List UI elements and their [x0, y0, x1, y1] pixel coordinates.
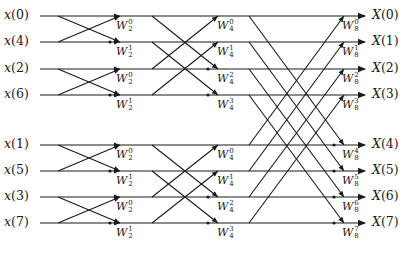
twiddle-factor-label: W12	[116, 98, 133, 112]
input-symbol: x	[4, 214, 11, 229]
twiddle-base: W	[342, 98, 353, 111]
output-index: (7)	[381, 214, 399, 229]
input-label: x(2)	[4, 60, 29, 75]
twiddle-factor-label: W04	[217, 148, 234, 162]
output-symbol: X	[372, 60, 381, 75]
twiddle-factor-label: W14	[217, 45, 234, 59]
twiddle-order: 8	[354, 26, 358, 33]
twiddle-factor-label: W68	[342, 200, 359, 214]
output-label: X(7)	[372, 214, 399, 229]
twiddle-order: 2	[128, 52, 132, 59]
input-label: x(4)	[4, 33, 29, 48]
twiddle-base: W	[116, 72, 127, 85]
twiddle-factor-label: W38	[342, 98, 359, 112]
twiddle-order: 4	[229, 155, 233, 162]
input-label: x(1)	[4, 136, 29, 151]
output-symbol: X	[372, 33, 381, 48]
twiddle-order: 8	[354, 181, 358, 188]
signal-flow-lines	[0, 0, 408, 259]
twiddle-order: 4	[229, 79, 233, 86]
output-arrow-icon	[358, 39, 366, 46]
input-symbol: x	[4, 7, 11, 22]
input-index: (1)	[11, 136, 29, 151]
twiddle-base: W	[116, 226, 127, 239]
twiddle-base: W	[116, 19, 127, 32]
output-label: X(3)	[372, 86, 399, 101]
output-symbol: X	[372, 7, 381, 22]
twiddle-order: 4	[229, 233, 233, 240]
output-arrow-icon	[358, 194, 366, 201]
multiplier-node-icon	[206, 221, 209, 224]
output-symbol: X	[372, 214, 381, 229]
twiddle-factor-label: W02	[116, 148, 133, 162]
input-symbol: x	[4, 136, 11, 151]
output-index: (6)	[381, 188, 399, 203]
twiddle-base: W	[342, 45, 353, 58]
input-symbol: x	[4, 33, 11, 48]
multiplier-node-icon	[206, 93, 209, 96]
twiddle-factor-label: W02	[116, 19, 133, 33]
output-symbol: X	[372, 188, 381, 203]
twiddle-order: 4	[229, 26, 233, 33]
twiddle-factor-label: W48	[342, 148, 359, 162]
twiddle-order: 2	[128, 155, 132, 162]
output-label: X(6)	[372, 188, 399, 203]
twiddle-base: W	[217, 174, 228, 187]
twiddle-base: W	[116, 174, 127, 187]
twiddle-factor-label: W34	[217, 226, 234, 240]
twiddle-base: W	[217, 200, 228, 213]
input-symbol: x	[4, 188, 11, 203]
twiddle-base: W	[116, 98, 127, 111]
output-index: (4)	[381, 136, 399, 151]
input-symbol: x	[4, 60, 11, 75]
twiddle-order: 8	[354, 207, 358, 214]
twiddle-factor-label: W02	[116, 200, 133, 214]
arrow-icon	[338, 139, 344, 145]
twiddle-order: 4	[229, 207, 233, 214]
output-label: X(1)	[372, 33, 399, 48]
twiddle-factor-label: W78	[342, 226, 359, 240]
twiddle-factor-label: W04	[217, 19, 234, 33]
input-index: (0)	[11, 7, 29, 22]
output-index: (5)	[381, 162, 399, 177]
twiddle-factor-label: W08	[342, 19, 359, 33]
input-label: x(0)	[4, 7, 29, 22]
twiddle-base: W	[217, 19, 228, 32]
arrow-icon	[338, 191, 344, 197]
twiddle-factor-label: W12	[116, 174, 133, 188]
fft-butterfly-diagram: x(0)x(4)x(2)x(6)x(1)x(5)x(3)x(7)X(0)X(1)…	[0, 0, 408, 259]
twiddle-order: 4	[229, 52, 233, 59]
twiddle-base: W	[342, 72, 353, 85]
twiddle-base: W	[342, 148, 353, 161]
twiddle-order: 2	[128, 105, 132, 112]
twiddle-base: W	[342, 200, 353, 213]
twiddle-factor-label: W12	[116, 45, 133, 59]
twiddle-order: 8	[354, 52, 358, 59]
output-index: (3)	[381, 86, 399, 101]
twiddle-base: W	[342, 19, 353, 32]
twiddle-base: W	[342, 174, 353, 187]
twiddle-base: W	[217, 45, 228, 58]
input-label: x(7)	[4, 214, 29, 229]
twiddle-order: 4	[229, 181, 233, 188]
twiddle-factor-label: W18	[342, 45, 359, 59]
output-arrow-icon	[358, 142, 366, 149]
output-label: X(5)	[372, 162, 399, 177]
twiddle-factor-label: W24	[217, 72, 234, 86]
input-index: (5)	[11, 162, 29, 177]
output-arrow-icon	[358, 13, 366, 20]
output-arrow-icon	[358, 220, 366, 227]
output-index: (2)	[381, 60, 399, 75]
twiddle-factor-label: W12	[116, 226, 133, 240]
input-index: (7)	[11, 214, 29, 229]
input-index: (2)	[11, 60, 29, 75]
twiddle-order: 2	[128, 26, 132, 33]
multiplier-node-icon	[332, 221, 335, 224]
input-index: (6)	[11, 86, 29, 101]
input-label: x(3)	[4, 188, 29, 203]
twiddle-order: 2	[128, 181, 132, 188]
twiddle-base: W	[217, 148, 228, 161]
twiddle-order: 8	[354, 79, 358, 86]
twiddle-base: W	[116, 200, 127, 213]
output-label: X(0)	[372, 7, 399, 22]
